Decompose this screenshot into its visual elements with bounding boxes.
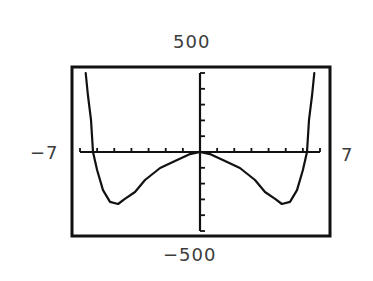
x-min-label: −7 [30,144,59,162]
y-min-label: −500 [163,246,216,264]
x-max-label: 7 [341,146,353,164]
y-max-label: 500 [173,33,210,51]
